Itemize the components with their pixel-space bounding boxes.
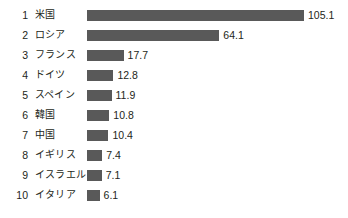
value-label: 10.4 [112,130,132,141]
value-label: 105.1 [308,10,334,21]
category-label: 米国 [35,10,87,20]
category-label: イギリス [35,150,87,160]
bar-track: 10.8 [87,105,348,125]
rank-number: 9 [0,170,28,181]
rank-number: 3 [0,50,28,61]
category-label: 中国 [35,130,87,140]
bar-track: 64.1 [87,25,348,45]
rank-number: 2 [0,30,28,41]
horizontal-bar-chart: 1米国105.12ロシア64.13フランス17.74ドイツ12.85スペイン11… [0,0,348,218]
bar [87,130,108,141]
bar [87,150,102,161]
rank-number: 7 [0,130,28,141]
bar-track: 11.9 [87,85,348,105]
bar-row: 10イタリア6.1 [0,185,348,205]
bar-track: 6.1 [87,185,348,205]
bar [87,10,304,21]
rank-number: 5 [0,90,28,101]
bar [87,170,102,181]
value-label: 7.4 [106,150,121,161]
rank-number: 10 [0,190,28,201]
category-label: イタリア [35,190,87,200]
bar [87,190,100,201]
category-label: スペイン [35,90,87,100]
value-label: 10.8 [113,110,133,121]
bar-row: 6韓国10.8 [0,105,348,125]
bar-track: 7.1 [87,165,348,185]
bar [87,110,109,121]
value-label: 17.7 [128,50,148,61]
rank-number: 8 [0,150,28,161]
bar-row: 3フランス17.7 [0,45,348,65]
category-label: 韓国 [35,110,87,120]
bar-row: 5スペイン11.9 [0,85,348,105]
category-label: ロシア [35,30,87,40]
bar-row: 2ロシア64.1 [0,25,348,45]
value-label: 64.1 [223,30,243,41]
bar-track: 17.7 [87,45,348,65]
rank-number: 6 [0,110,28,121]
bar [87,30,219,41]
value-label: 11.9 [116,90,136,101]
bar-row: 7中国10.4 [0,125,348,145]
bar-track: 10.4 [87,125,348,145]
bar-row: 4ドイツ12.8 [0,65,348,85]
category-label: イスラエル [35,170,87,180]
category-label: ドイツ [35,70,87,80]
bar [87,50,124,61]
rank-number: 1 [0,10,28,21]
bar-row: 1米国105.1 [0,5,348,25]
value-label: 12.8 [117,70,137,81]
value-label: 6.1 [104,190,119,201]
bar-track: 7.4 [87,145,348,165]
rank-number: 4 [0,70,28,81]
bar-row: 9イスラエル7.1 [0,165,348,185]
bar-row: 8イギリス7.4 [0,145,348,165]
bar [87,70,113,81]
bar-track: 12.8 [87,65,348,85]
category-label: フランス [35,50,87,60]
bar-track: 105.1 [87,5,348,25]
bar [87,90,112,101]
value-label: 7.1 [106,170,121,181]
